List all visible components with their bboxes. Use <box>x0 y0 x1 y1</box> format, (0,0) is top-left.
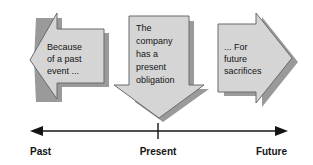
future-arrow-line-2: future <box>224 54 247 64</box>
future-arrow-line-1: ... For <box>224 42 248 52</box>
present-arrow-line-1: The <box>136 23 152 33</box>
timeline-left-arrowhead <box>30 126 43 136</box>
diagram-canvas: Because of a past event ... The company … <box>0 0 313 165</box>
timeline-label-future: Future <box>256 146 288 157</box>
present-arrow-line-4: present <box>136 62 167 72</box>
timeline-label-past: Past <box>30 146 52 157</box>
past-arrow: Because of a past event ... <box>30 13 109 102</box>
past-arrow-line-1: Because <box>47 42 82 52</box>
timeline-right-arrowhead <box>275 126 288 136</box>
present-arrow-line-2: company <box>136 36 173 46</box>
timeline-diagram: Because of a past event ... The company … <box>0 0 313 165</box>
timeline-label-present: Present <box>140 146 177 157</box>
present-arrow: The company has a present obligation <box>114 16 209 122</box>
past-arrow-line-3: event ... <box>47 66 79 76</box>
past-arrow-line-2: of a past <box>47 54 82 64</box>
past-arrow-text: Because of a past event ... <box>47 42 85 76</box>
future-arrow: ... For future sacrifices <box>218 13 298 107</box>
future-arrow-line-3: sacrifices <box>224 66 262 76</box>
present-arrow-line-5: obligation <box>136 75 175 85</box>
timeline-labels: Past Present Future <box>30 146 287 157</box>
present-arrow-line-3: has a <box>136 49 158 59</box>
timeline-axis <box>30 123 288 139</box>
